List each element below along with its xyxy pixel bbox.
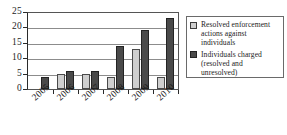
chart-legend: Resolved enforcement actions against ind… [186, 16, 284, 78]
y-axis-tick-label: 20 [2, 23, 22, 33]
y-axis-labels: 2520151050 [2, 12, 22, 90]
legend-entry-1: Resolved enforcement actions against ind… [190, 20, 280, 48]
legend-entry-2: Individuals charged (resolved and unreso… [190, 50, 280, 78]
bars-layer [28, 12, 178, 89]
bar-group [103, 12, 128, 89]
y-axis-tick-label: 0 [2, 84, 22, 94]
bar-group [28, 12, 53, 89]
bar-chart-figure: 2520151050 200520062007200820092010 Reso… [0, 0, 287, 135]
bar-2009-series1 [132, 49, 141, 89]
dark-gray-swatch [190, 51, 197, 58]
y-axis-tick-label: 5 [2, 69, 22, 79]
bar-group [128, 12, 153, 89]
x-axis-labels: 200520062007200820092010 [28, 95, 180, 133]
legend-label: Resolved enforcement actions against ind… [201, 20, 280, 48]
y-axis-tick-label: 25 [2, 7, 22, 17]
bar-group [78, 12, 103, 89]
light-gray-swatch [190, 22, 197, 29]
x-axis-tickmark [178, 90, 179, 94]
x-axis-tickmark [53, 90, 54, 94]
y-axis-tick-label: 15 [2, 38, 22, 48]
bar-group [53, 12, 78, 89]
x-axis-tickmark [153, 90, 154, 94]
x-axis-tickmark [128, 90, 129, 94]
legend-label: Individuals charged (resolved and unreso… [201, 50, 280, 78]
x-axis-tickmark [103, 90, 104, 94]
x-axis-tickmark [78, 90, 79, 94]
bar-group [153, 12, 178, 89]
bar-2010-series2 [166, 18, 175, 89]
y-axis-tick-label: 10 [2, 53, 22, 63]
bar-2009-series2 [141, 30, 150, 89]
